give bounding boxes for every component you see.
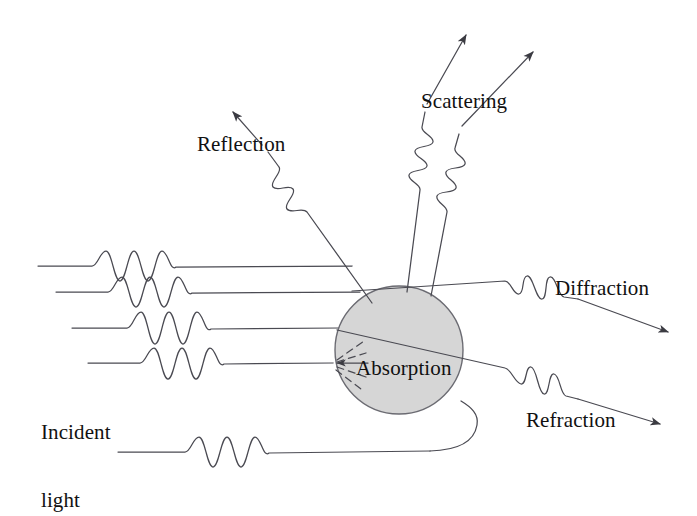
scattering-ray-1-path bbox=[407, 112, 433, 292]
label-incident-line2: light bbox=[41, 489, 111, 512]
incident-ray-3 bbox=[72, 312, 340, 344]
label-reflection: Reflection bbox=[197, 133, 285, 156]
scattering-ray-1 bbox=[407, 35, 466, 292]
scattering-ray-2-path bbox=[431, 134, 465, 296]
label-incident-light: Incident light bbox=[41, 376, 111, 516]
bottom-ray-curve bbox=[430, 401, 477, 451]
incident-ray-4 bbox=[88, 348, 333, 379]
label-incident-line1: Incident bbox=[41, 421, 111, 444]
particle-sphere bbox=[335, 286, 463, 414]
label-absorption: Absorption bbox=[356, 357, 452, 380]
diffraction-ray-arrow bbox=[578, 299, 668, 332]
label-refraction: Refraction bbox=[526, 409, 616, 432]
label-diffraction: Diffraction bbox=[555, 277, 649, 300]
reflection-ray-path bbox=[268, 152, 372, 303]
incident-ray-2 bbox=[56, 277, 360, 307]
incident-ray-5 bbox=[118, 437, 430, 467]
label-scattering: Scattering bbox=[421, 90, 507, 113]
incident-ray-1 bbox=[38, 251, 352, 281]
